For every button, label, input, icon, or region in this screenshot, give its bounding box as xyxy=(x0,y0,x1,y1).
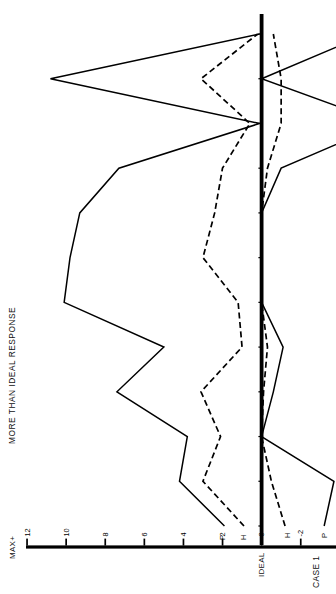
chart-plot-svg: 121086420-2-4-6-8 xyxy=(0,0,336,594)
axis-tick-label: 6 xyxy=(140,532,149,536)
figure-root: CASE 1 121086420-2-4-6-8 MAX+ MAX− IDEAL… xyxy=(0,0,336,594)
axis-tick xyxy=(300,539,302,546)
axis-cap-max-plus: MAX+ xyxy=(9,536,17,559)
series-path-p-lower xyxy=(262,34,336,526)
category-tick xyxy=(258,436,260,437)
axis-tick xyxy=(104,539,106,546)
category-tick xyxy=(258,257,260,258)
axis-tick xyxy=(183,539,185,546)
axis-tick-label: 8 xyxy=(101,532,110,536)
series-label-p-lower: P xyxy=(321,533,329,538)
category-tick xyxy=(258,78,260,79)
series-path-h-upper xyxy=(201,34,258,526)
series-label-p-upper: P xyxy=(219,535,227,540)
axis-tick-label: 10 xyxy=(62,528,71,536)
category-tick xyxy=(258,212,260,213)
series-path-p-upper xyxy=(50,34,259,526)
category-tick xyxy=(258,346,260,347)
axis-caption-more-than-ideal: MORE THAN IDEAL RESPONSE xyxy=(8,307,16,444)
category-tick xyxy=(258,302,260,303)
axis-tick-label: 4 xyxy=(179,532,188,536)
rotated-figure-canvas: CASE 1 121086420-2-4-6-8 MAX+ MAX− IDEAL… xyxy=(0,0,336,594)
axis-and-plot-area: 121086420-2-4-6-8 xyxy=(0,0,336,594)
axis-cap-ideal: IDEAL xyxy=(258,552,266,577)
series-path-h-lower xyxy=(262,34,285,526)
axis-tick-label: -2 xyxy=(296,530,305,537)
category-tick xyxy=(258,33,260,34)
category-tick xyxy=(258,123,260,124)
axis-tick-label: 12 xyxy=(23,528,32,536)
category-tick xyxy=(258,391,260,392)
axis-tick xyxy=(144,539,146,546)
category-tick xyxy=(258,168,260,169)
series-label-h-lower: H xyxy=(284,533,292,538)
category-tick xyxy=(258,525,260,526)
series-label-h-upper: H xyxy=(240,535,248,540)
value-axis-line xyxy=(26,545,336,548)
category-tick xyxy=(258,481,260,482)
axis-tick xyxy=(26,539,28,546)
axis-tick xyxy=(65,539,67,546)
